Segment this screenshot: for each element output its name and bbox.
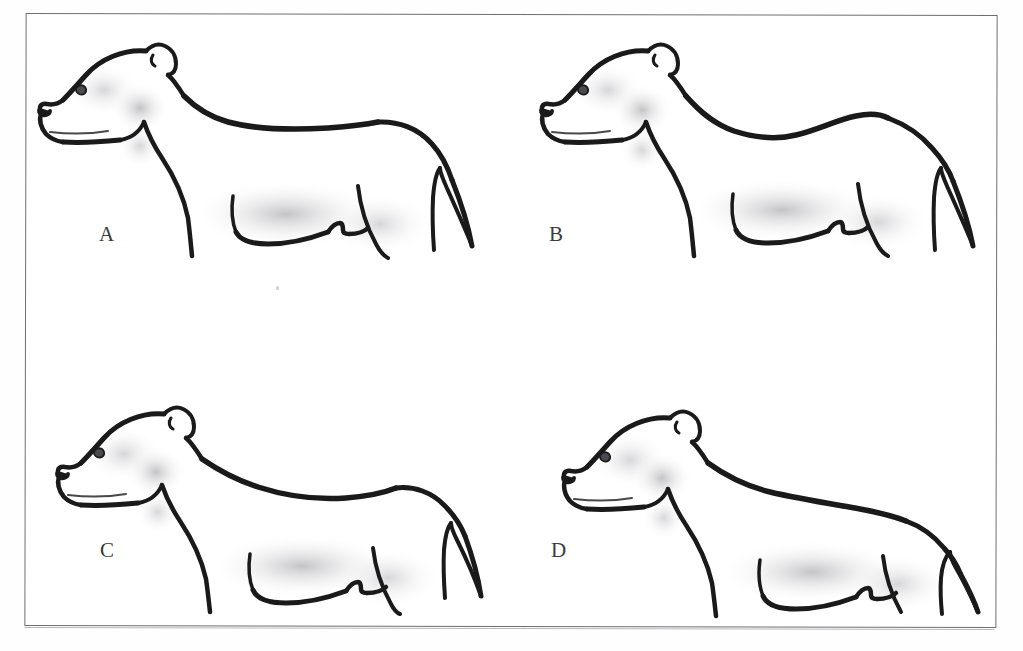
- figure-label-a: A: [99, 224, 115, 245]
- topline-roached: [202, 459, 396, 499]
- tail-front-line: [444, 523, 451, 598]
- topline-level: [184, 96, 378, 129]
- mouth-line: [574, 498, 632, 500]
- muzzle-front-line: [564, 480, 587, 509]
- topline-sloping: [708, 463, 906, 521]
- scan-speck-artifact: [276, 286, 279, 290]
- eye-shape: [578, 85, 588, 94]
- mouth-line: [68, 494, 126, 496]
- topline-dipped: [686, 96, 888, 138]
- scanned-page: A: [0, 0, 1023, 651]
- croup-line: [396, 488, 465, 536]
- muzzle-front-line: [58, 476, 81, 505]
- muzzle-front-line: [542, 113, 565, 142]
- dog-profile-d: [530, 366, 1000, 616]
- tail-inner-line: [950, 552, 978, 612]
- lower-jaw-line: [565, 140, 622, 142]
- dog-profile-b: [530, 18, 1000, 268]
- front-leg-line: [668, 489, 716, 616]
- eye-shape: [76, 85, 86, 94]
- muzzle-top-line: [564, 467, 587, 475]
- mouth-line: [552, 131, 610, 133]
- muzzle-top-line: [40, 100, 63, 108]
- tail-inner-line: [941, 168, 973, 246]
- ear-inner-line: [653, 55, 657, 66]
- eye-shape: [600, 452, 610, 461]
- tail-front-line: [433, 168, 440, 250]
- lower-jaw-line: [63, 140, 120, 142]
- tail-inner-line: [440, 168, 472, 246]
- tail-front-line: [934, 168, 941, 250]
- ear-base-line: [692, 442, 708, 463]
- lower-jaw-line: [587, 507, 644, 509]
- figure-cell-d: [530, 366, 1000, 616]
- figure-cell-c: [28, 366, 498, 616]
- figure-label-b: B: [549, 224, 564, 245]
- figure-label-d: D: [551, 540, 567, 561]
- front-leg-line: [646, 122, 694, 256]
- ear-inner-line: [151, 55, 155, 66]
- figure-cell-b: [530, 18, 1000, 268]
- front-leg-line: [144, 122, 192, 256]
- mouth-line: [50, 131, 108, 133]
- dog-profile-c: [28, 366, 498, 616]
- lower-jaw-line: [81, 503, 138, 505]
- eye-shape: [94, 448, 104, 457]
- muzzle-front-line: [40, 113, 63, 142]
- ear-inner-line: [675, 422, 679, 433]
- ear-base-line: [168, 75, 184, 96]
- figure-label-c: C: [100, 540, 115, 561]
- muzzle-top-line: [542, 100, 565, 108]
- muzzle-top-line: [58, 463, 81, 471]
- ear-inner-line: [169, 418, 173, 429]
- front-leg-line: [162, 485, 210, 612]
- ear-base-line: [670, 75, 686, 96]
- ear-base-line: [186, 438, 202, 459]
